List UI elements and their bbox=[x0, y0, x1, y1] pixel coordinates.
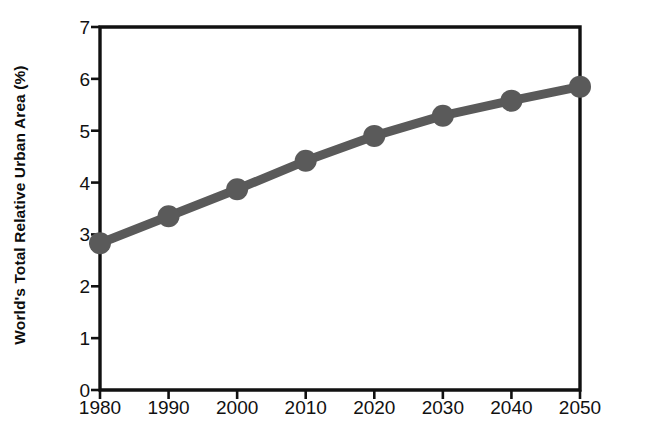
data-point-marker bbox=[226, 178, 248, 200]
data-point-marker bbox=[432, 105, 454, 127]
data-point-marker bbox=[158, 205, 180, 227]
plot-area bbox=[0, 0, 650, 447]
data-point-marker bbox=[295, 150, 317, 172]
data-point-marker bbox=[500, 90, 522, 112]
data-point-marker bbox=[569, 76, 591, 98]
chart-figure: World's Total Relative Urban Area (%) 01… bbox=[0, 0, 650, 447]
data-series-markers bbox=[89, 76, 591, 255]
data-point-marker bbox=[363, 125, 385, 147]
data-point-marker bbox=[89, 232, 111, 254]
